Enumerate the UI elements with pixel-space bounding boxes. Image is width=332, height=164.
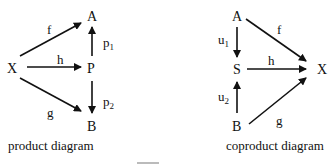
coproduct-diagram: A S B X f h g u1 u2 coproduct diagram xyxy=(218,9,327,153)
label-h: h xyxy=(268,53,275,68)
label-p2: p2 xyxy=(103,94,114,111)
label-u2: u2 xyxy=(218,89,229,106)
figure-caption-fragment xyxy=(137,162,159,164)
label-g: g xyxy=(47,105,54,120)
label-p1: p1 xyxy=(103,35,114,52)
node-b: B xyxy=(87,119,96,134)
arrow-f xyxy=(246,19,306,61)
node-s: S xyxy=(233,62,241,77)
label-f: f xyxy=(277,22,282,37)
diagram-canvas: X A P B f h g p1 p2 product diagram A S … xyxy=(0,0,332,164)
coproduct-caption: coproduct diagram xyxy=(226,138,324,153)
product-caption: product diagram xyxy=(8,138,94,153)
product-diagram: X A P B f h g p1 p2 product diagram xyxy=(7,9,114,153)
node-p: P xyxy=(87,61,95,76)
node-x: X xyxy=(317,62,327,77)
node-b: B xyxy=(232,119,241,134)
label-h: h xyxy=(57,52,64,67)
node-a: A xyxy=(87,9,98,24)
label-f: f xyxy=(47,22,52,37)
label-g: g xyxy=(276,113,283,128)
node-a: A xyxy=(232,9,243,24)
node-x: X xyxy=(7,61,17,76)
label-u1: u1 xyxy=(218,32,229,49)
